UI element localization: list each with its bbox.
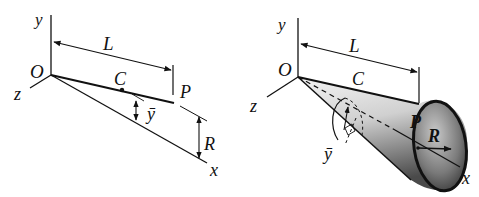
z-axis-label: z: [13, 84, 21, 104]
centroid-label: C: [114, 69, 127, 89]
length-label: L: [348, 35, 360, 56]
x-axis-label: x: [209, 160, 218, 180]
y-axis-label: y: [276, 15, 286, 34]
ybar-label: ȳ: [145, 104, 156, 124]
base-center-dot: [416, 146, 420, 150]
centroid-label: C: [352, 69, 365, 89]
z-axis: [267, 77, 298, 97]
right-panel: y L O C z P R ȳ x: [249, 15, 472, 194]
ybar-label: ȳ: [322, 144, 333, 164]
line-op: [51, 75, 174, 103]
figure: y L O C z P ȳ R x: [0, 0, 479, 197]
radius-label: R: [203, 134, 215, 154]
origin-label: O: [30, 61, 44, 82]
z-axis-label: z: [249, 96, 257, 116]
point-label: P: [409, 112, 422, 132]
length-label: L: [102, 33, 114, 54]
origin-label: O: [278, 59, 292, 80]
radius-label: R: [427, 126, 440, 146]
y-axis-label: y: [33, 10, 43, 29]
x-axis-label: x: [461, 168, 470, 188]
point-label: P: [179, 82, 191, 102]
r-extension: [180, 106, 207, 121]
left-panel: y L O C z P ȳ R x: [13, 10, 218, 180]
